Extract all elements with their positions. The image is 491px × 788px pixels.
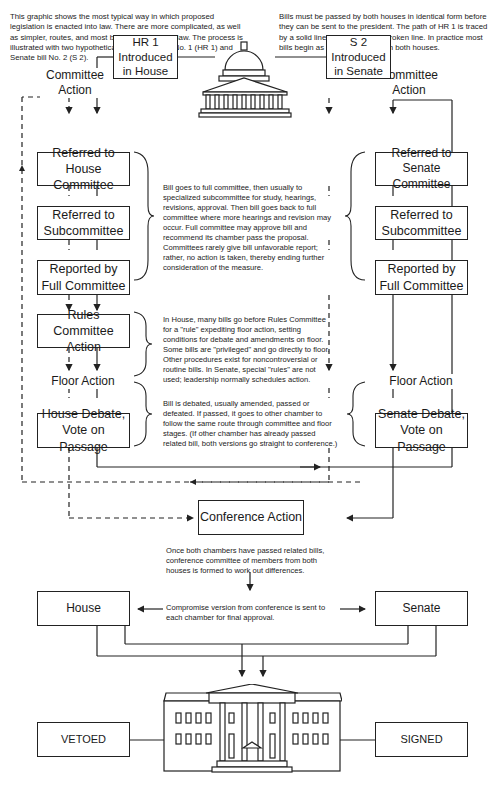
floor-note: Bill is debated, usually amended, passed…: [163, 399, 338, 449]
senate-referred-subcommittee-box[interactable]: Referred to Subcommittee: [375, 206, 468, 240]
senate-reported-box[interactable]: Reported by Full Committee: [375, 260, 468, 295]
hr1-introduced-box[interactable]: HR 1 Introduced in House: [113, 35, 178, 79]
conference-note: Once both chambers have passed related b…: [166, 546, 336, 576]
house-referred-committee-box[interactable]: Referred to House Committee: [37, 152, 130, 186]
house-committee-action-label: Committee Action: [40, 68, 110, 98]
senate-referred-committee-box[interactable]: Referred to Senate Committee: [375, 152, 468, 186]
house-rules-committee-box[interactable]: Rules Committee Action: [37, 314, 130, 348]
house-referred-subcommittee-box[interactable]: Referred to Subcommittee: [37, 206, 130, 240]
s2-introduced-box[interactable]: S 2 Introduced in Senate: [326, 35, 391, 79]
final-senate-box[interactable]: Senate: [375, 591, 468, 626]
vetoed-box[interactable]: VETOED: [37, 722, 130, 757]
compromise-note: Compromise version from conference is se…: [166, 603, 336, 623]
final-house-box[interactable]: House: [37, 591, 130, 626]
conference-action-box[interactable]: Conference Action: [198, 500, 304, 535]
white-house-icon: [162, 684, 342, 780]
signed-box[interactable]: SIGNED: [375, 722, 468, 757]
house-debate-box[interactable]: House Debate, Vote on Passage: [37, 413, 130, 448]
committee-note: Bill goes to full committee, then usuall…: [163, 183, 335, 273]
senate-floor-action-label: Floor Action: [383, 374, 459, 389]
senate-debate-box[interactable]: Senate Debate, Vote on Passage: [375, 413, 468, 448]
house-floor-action-label: Floor Action: [45, 374, 121, 389]
rules-note: In House, many bills go before Rules Com…: [163, 315, 335, 385]
house-reported-box[interactable]: Reported by Full Committee: [37, 260, 130, 295]
capitol-icon: [195, 40, 295, 120]
